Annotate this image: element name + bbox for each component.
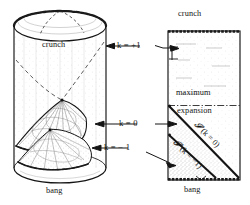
k-plus-one-leader-right-stub xyxy=(155,46,163,49)
left-cylinder-group xyxy=(14,11,106,183)
k-zero-label: k = 0 xyxy=(119,119,138,128)
expansion-label: expansion xyxy=(177,107,212,115)
crunch-label-left: crunch xyxy=(42,41,65,49)
crunch-label-right: crunch xyxy=(178,10,201,18)
k-minus-one-leader-right xyxy=(146,152,170,163)
k-plus-one-label: k = +1 xyxy=(117,41,141,50)
k-zero-vertex xyxy=(61,99,64,102)
k-plus-one-arrowhead-left xyxy=(106,43,115,49)
bang-label-left: bang xyxy=(46,187,63,195)
k-zero-left-endpoint xyxy=(168,105,171,108)
maximum-label: maximum xyxy=(176,89,211,97)
figure-container: crunch bang crunch bang maximum expansio… xyxy=(0,0,250,205)
diagram-canvas xyxy=(0,0,250,205)
k-minus-one-vertex xyxy=(49,129,52,132)
bang-label-right: bang xyxy=(184,186,201,194)
k-minus-one-label: k = − 1 xyxy=(104,143,130,152)
k-minus-one-left-endpoint xyxy=(168,134,171,137)
